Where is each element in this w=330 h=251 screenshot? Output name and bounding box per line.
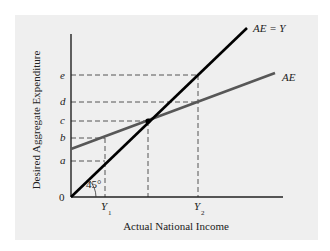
tick-c: c xyxy=(60,114,65,126)
ae-diagram: 45° AE = Y AE e d c b a 0 Y 1 Y 2 Actual… xyxy=(0,0,330,251)
line-45-label: AE = Y xyxy=(252,22,287,34)
tick-a: a xyxy=(60,154,66,166)
tick-y1-subscript: 1 xyxy=(108,209,112,217)
tick-d: d xyxy=(60,95,66,107)
ae-line-label: AE xyxy=(281,71,296,83)
tick-y2-subscript: 2 xyxy=(201,209,205,217)
angle-label: 45° xyxy=(86,178,101,190)
origin-label: 0 xyxy=(59,191,65,203)
equilibrium-point xyxy=(145,118,150,123)
x-axis-title: Actual National Income xyxy=(123,220,229,232)
tick-b: b xyxy=(60,131,66,143)
diagram-panel xyxy=(15,15,318,240)
tick-e: e xyxy=(60,69,65,81)
y-axis-title: Desired Aggregate Expenditure xyxy=(30,51,42,190)
